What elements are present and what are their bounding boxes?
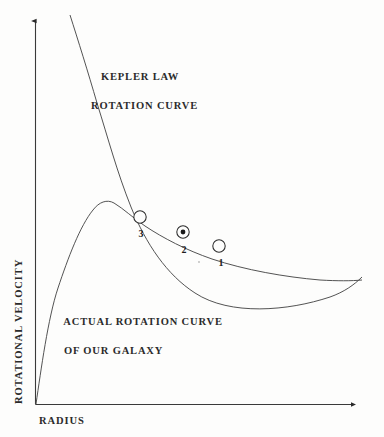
galaxy-annotation-line-2: OF OUR GALAXY (64, 345, 163, 356)
y-axis-title: ROTATIONAL VELOCITY (12, 274, 28, 404)
scan-speck (198, 261, 200, 263)
x-axis-title: RADIUS (39, 414, 85, 428)
marker-label-3: 3 (134, 227, 148, 241)
kepler-annotation-line-2: ROTATION CURVE (87, 99, 198, 113)
galaxy-annotation-line-1: ACTUAL ROTATION CURVE (63, 316, 222, 327)
marker-group-2[interactable] (177, 226, 189, 238)
galaxy-curve-annotation: ACTUAL ROTATION CURVE OF OUR GALAXY (50, 301, 223, 372)
marker-dot-2 (181, 230, 186, 235)
marker-circle-3[interactable] (134, 211, 146, 223)
marker-group-1[interactable] (213, 240, 225, 252)
marker-label-2: 2 (177, 243, 191, 257)
marker-group-3[interactable] (134, 211, 146, 223)
kepler-annotation-line-1: KEPLER LAW (101, 71, 179, 82)
kepler-curve-annotation: KEPLER LAW ROTATION CURVE (87, 56, 198, 141)
marker-circle-1[interactable] (213, 240, 225, 252)
rotation-curve-figure: 3 2 1 KEPLER LAW ROTATION CURVE ACTUAL R… (0, 0, 384, 437)
marker-label-1: 1 (214, 256, 228, 270)
